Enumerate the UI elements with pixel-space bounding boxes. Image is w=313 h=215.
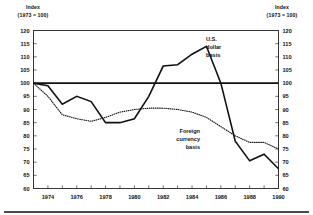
- y-axis-label: 85: [283, 120, 289, 126]
- right-axis-title-line2: (1973 = 100): [267, 12, 298, 18]
- annotation-us-dollar-basis-line2: dollar: [206, 44, 222, 50]
- y-axis-label: 120: [283, 28, 292, 34]
- y-axis-label: 80: [23, 133, 29, 139]
- y-axis-label: 115: [20, 41, 29, 47]
- y-axis-label: 75: [23, 146, 29, 152]
- y-axis-labels-left: 1201151101051009590858075706560: [20, 28, 29, 192]
- y-axis-label: 80: [283, 133, 289, 139]
- x-axis-label: 1982: [157, 194, 169, 200]
- y-axis-label: 100: [283, 80, 292, 86]
- y-axis-label: 105: [20, 67, 29, 73]
- y-axis-label: 85: [23, 120, 29, 126]
- x-axis-label: 1984: [186, 194, 199, 200]
- annotation-foreign-currency-basis-line2: currency: [176, 136, 201, 142]
- y-axis-label: 100: [20, 80, 29, 86]
- annotation-us-dollar-basis-line3: basis: [206, 52, 220, 58]
- y-axis-label: 90: [283, 107, 289, 113]
- x-axis-labels: 197419761978198019821984198619881990: [42, 194, 285, 200]
- y-axis-label: 110: [20, 54, 29, 60]
- y-axis-label: 105: [283, 67, 292, 73]
- y-axis-ticks-right: [275, 31, 278, 189]
- x-axis-label: 1978: [99, 194, 111, 200]
- x-axis-label: 1988: [243, 194, 255, 200]
- annotation-us-dollar-basis-line1: U.S.: [206, 36, 217, 42]
- y-axis-ticks-left: [34, 31, 37, 189]
- series-foreign-currency-basis: [34, 83, 279, 149]
- x-axis-label: 1980: [128, 194, 140, 200]
- y-axis-label: 70: [283, 159, 289, 165]
- y-axis-label: 65: [283, 172, 289, 178]
- annotation-foreign-currency-basis: Foreign currency basis: [176, 128, 201, 150]
- y-axis-label: 65: [23, 172, 29, 178]
- right-axis-title-line1: Index: [275, 4, 289, 10]
- series-us-dollar-basis: [34, 46, 279, 168]
- y-axis-label: 60: [23, 186, 29, 192]
- annotation-foreign-currency-basis-line3: basis: [186, 144, 200, 150]
- y-axis-label: 115: [283, 41, 292, 47]
- x-axis-label: 1990: [272, 194, 284, 200]
- x-axis-ticks: [34, 185, 279, 188]
- exchange-rate-index-chart: Index (1973 = 100) Index (1973 = 100) 12…: [0, 0, 313, 215]
- y-axis-label: 110: [283, 54, 292, 60]
- y-axis-label: 95: [283, 93, 289, 99]
- x-axis-label: 1986: [215, 194, 227, 200]
- x-axis-label: 1976: [71, 194, 83, 200]
- y-axis-label: 95: [23, 93, 29, 99]
- x-axis-label: 1974: [42, 194, 55, 200]
- annotation-foreign-currency-basis-line1: Foreign: [179, 128, 200, 134]
- y-axis-label: 60: [283, 186, 289, 192]
- y-axis-label: 70: [23, 159, 29, 165]
- annotation-us-dollar-basis: U.S. dollar basis: [206, 36, 222, 58]
- plot-frame: [34, 31, 279, 189]
- y-axis-label: 120: [20, 28, 29, 34]
- y-axis-label: 90: [23, 107, 29, 113]
- left-axis-title-line1: Index: [26, 4, 40, 10]
- y-axis-label: 75: [283, 146, 289, 152]
- left-axis-title: Index (1973 = 100): [18, 4, 49, 18]
- left-axis-title-line2: (1973 = 100): [18, 12, 49, 18]
- right-axis-title: Index (1973 = 100): [267, 4, 298, 18]
- y-axis-labels-right: 1201151101051009590858075706560: [283, 28, 292, 192]
